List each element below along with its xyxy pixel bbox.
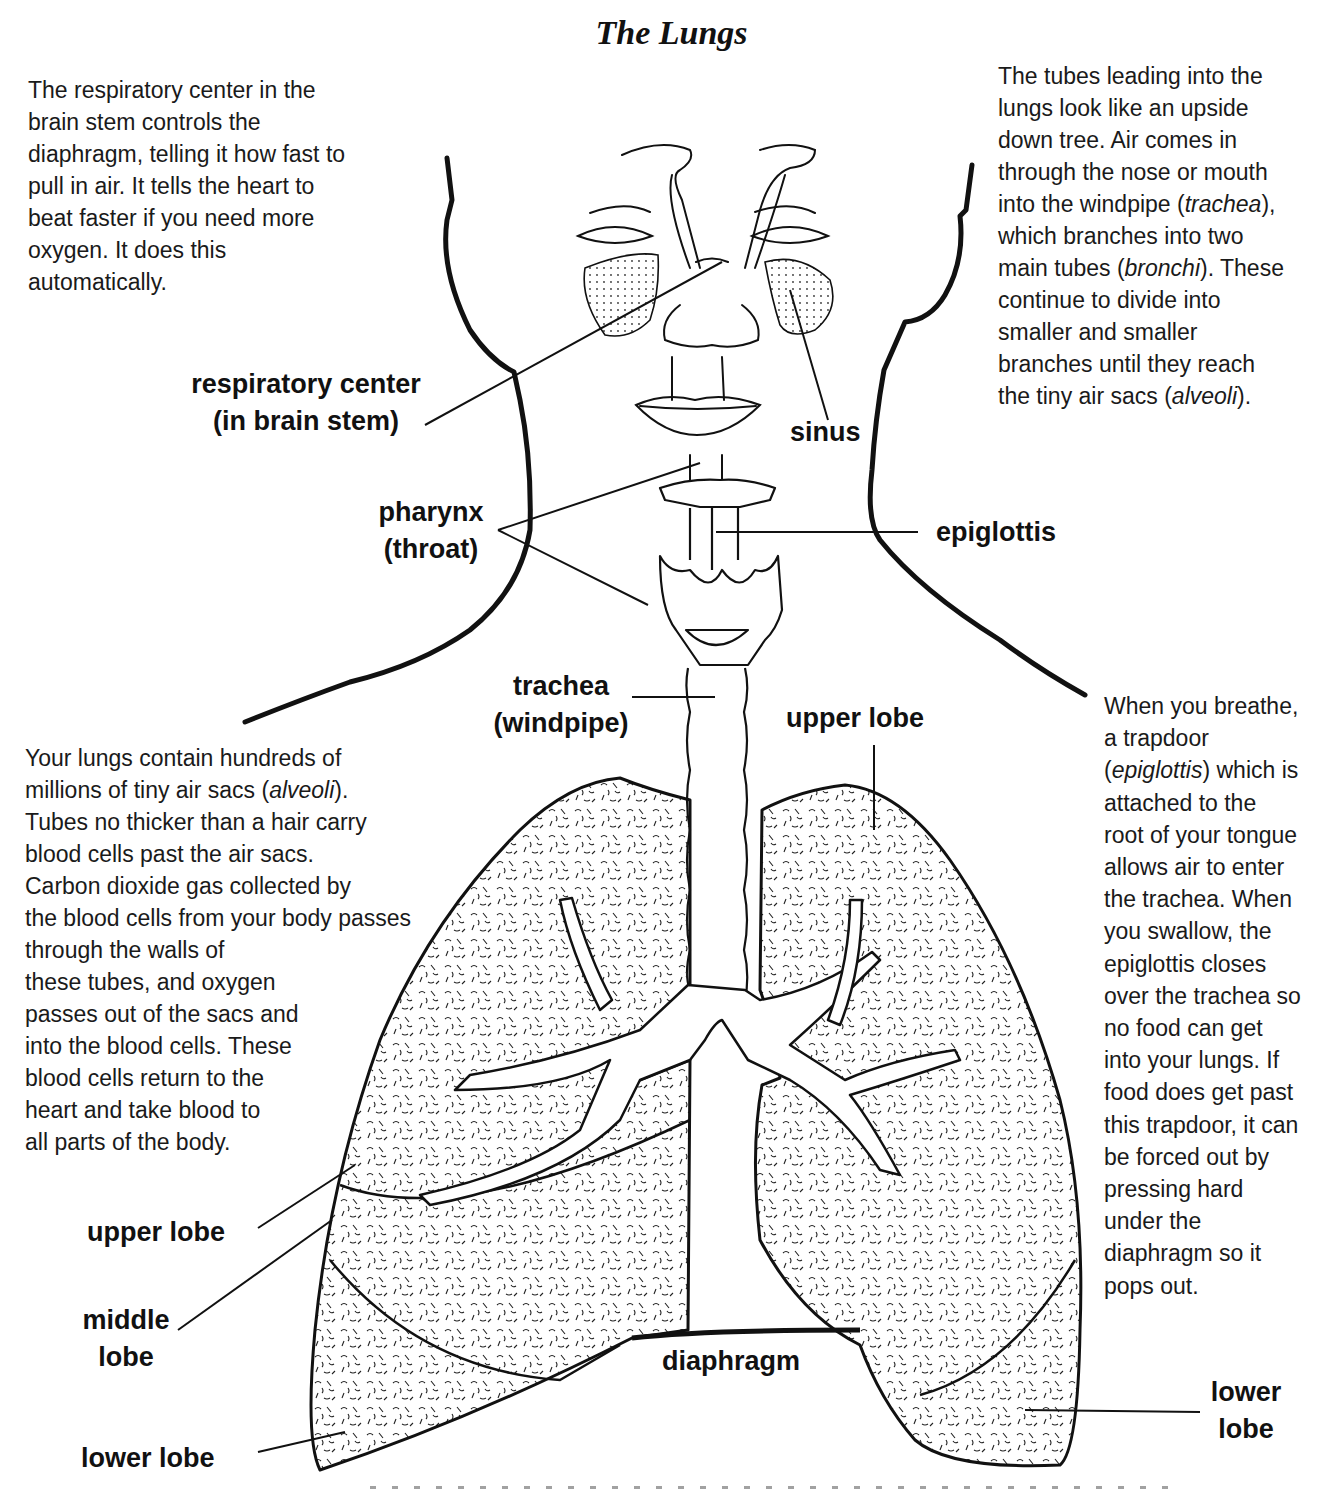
paragraph-line: diaphragm so it	[1104, 1237, 1301, 1269]
label-trachea: trachea (windpipe)	[478, 668, 644, 742]
paragraph-line: under the	[1104, 1205, 1301, 1237]
paragraph-line: passes out of the sacs and	[25, 998, 411, 1030]
alveoli-paragraph: Your lungs contain hundreds ofmillions o…	[25, 742, 411, 1158]
body-outline	[245, 158, 1085, 722]
label-sinus: sinus	[790, 414, 861, 451]
paragraph-line: root of your tongue	[1104, 819, 1301, 851]
maxillary-sinus	[584, 254, 833, 336]
paragraph-line: the blood cells from your body passes	[25, 902, 411, 934]
paragraph-line: pressing hard	[1104, 1173, 1301, 1205]
footer-rule	[370, 1486, 1170, 1489]
paragraph-line: branches until they reach	[998, 348, 1284, 380]
paragraph-line: over the trachea so	[1104, 980, 1301, 1012]
paragraph-line: main tubes (bronchi). These	[998, 252, 1284, 284]
label-diaphragm: diaphragm	[662, 1343, 800, 1380]
paragraph-line: food does get past	[1104, 1076, 1301, 1108]
label-epiglottis: epiglottis	[936, 514, 1056, 551]
larynx	[660, 480, 782, 665]
paragraph-line: pops out.	[1104, 1270, 1301, 1302]
paragraph-line: these tubes, and oxygen	[25, 966, 411, 998]
paragraph-line: When you breathe,	[1104, 690, 1301, 722]
paragraph-line: smaller and smaller	[998, 316, 1284, 348]
paragraph-line: into your lungs. If	[1104, 1044, 1301, 1076]
respiratory-center-paragraph: The respiratory center in the brain stem…	[28, 74, 345, 298]
paragraph-line: blood cells return to the	[25, 1062, 411, 1094]
tubes-paragraph: The tubes leading into thelungs look lik…	[998, 60, 1284, 412]
label-pharynx: pharynx (throat)	[368, 494, 494, 568]
paragraph-line: lungs look like an upside	[998, 92, 1284, 124]
right-lung	[755, 785, 1080, 1466]
paragraph-line: (epiglottis) which is	[1104, 754, 1301, 786]
paragraph-line: the trachea. When	[1104, 883, 1301, 915]
paragraph-line: into the blood cells. These	[25, 1030, 411, 1062]
label-respiratory-center: respiratory center (in brain stem)	[172, 366, 440, 440]
label-lower-lobe-left: lower lobe	[81, 1440, 215, 1477]
paragraph-line: be forced out by	[1104, 1141, 1301, 1173]
paragraph-line: all parts of the body.	[25, 1126, 411, 1158]
paragraph-line: millions of tiny air sacs (alveoli).	[25, 774, 411, 806]
paragraph-line: no food can get	[1104, 1012, 1301, 1044]
paragraph-line: this trapdoor, it can	[1104, 1109, 1301, 1141]
epiglottis-paragraph: When you breathe,a trapdoor(epiglottis) …	[1104, 690, 1301, 1302]
paragraph-line: allows air to enter	[1104, 851, 1301, 883]
paragraph-line: through the nose or mouth	[998, 156, 1284, 188]
paragraph-line: you swallow, the	[1104, 915, 1301, 947]
label-middle-lobe: middle lobe	[74, 1302, 178, 1376]
paragraph-line: which branches into two	[998, 220, 1284, 252]
paragraph-line: through the walls of	[25, 934, 411, 966]
paragraph-line: Your lungs contain hundreds of	[25, 742, 411, 774]
paragraph-line: Carbon dioxide gas collected by	[25, 870, 411, 902]
paragraph-line: attached to the	[1104, 787, 1301, 819]
trachea	[686, 668, 747, 1000]
label-upper-lobe-left: upper lobe	[87, 1214, 225, 1251]
paragraph-line: epiglottis closes	[1104, 948, 1301, 980]
paragraph-line: The tubes leading into the	[998, 60, 1284, 92]
paragraph-line: blood cells past the air sacs.	[25, 838, 411, 870]
paragraph-line: Tubes no thicker than a hair carry	[25, 806, 411, 838]
paragraph-line: down tree. Air comes in	[998, 124, 1284, 156]
label-upper-lobe-right: upper lobe	[786, 700, 924, 737]
paragraph-line: continue to divide into	[998, 284, 1284, 316]
paragraph-line: heart and take blood to	[25, 1094, 411, 1126]
paragraph-line: the tiny air sacs (alveoli).	[998, 380, 1284, 412]
label-lower-lobe-right: lower lobe	[1196, 1374, 1296, 1448]
paragraph-line: into the windpipe (trachea),	[998, 188, 1284, 220]
paragraph-line: a trapdoor	[1104, 722, 1301, 754]
